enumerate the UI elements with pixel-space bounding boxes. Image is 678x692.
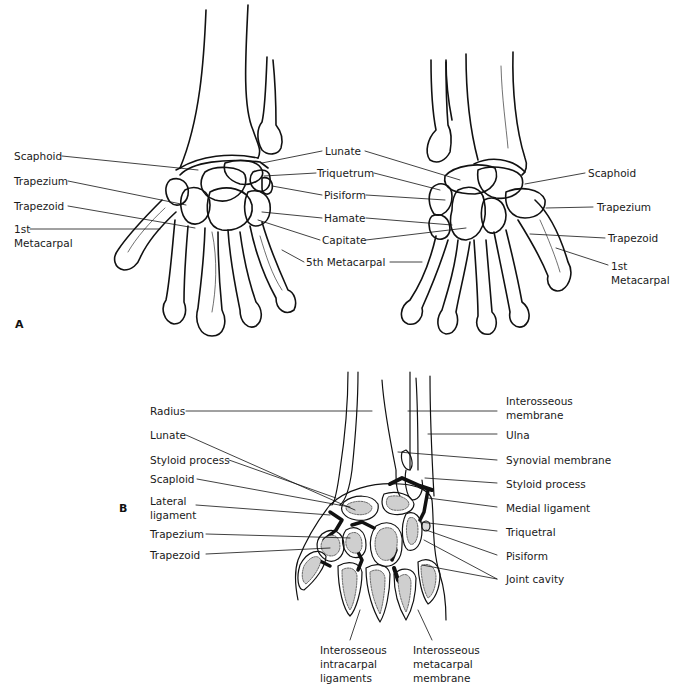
wrist-anatomy-illustration — [0, 0, 678, 692]
label-b-lateral-ligament: Lateral ligament — [150, 494, 196, 522]
label-b-trapezoid: Trapezoid — [150, 548, 200, 562]
label-b-radius: Radius — [150, 404, 185, 418]
label-b-scaploid: Scaploid — [150, 472, 194, 486]
label-b-medial-ligament: Medial ligament — [506, 501, 590, 515]
label-a-pisiform: Pisiform — [324, 188, 366, 202]
panel-label-b: B — [119, 502, 127, 515]
label-b-interosseous-membrane: Interosseous membrane — [506, 394, 573, 422]
label-a-right-trapezoid: Trapezoid — [608, 231, 658, 245]
label-a-right-trapezium: Trapezium — [597, 200, 651, 214]
label-a-lunate: Lunate — [325, 144, 361, 158]
label-b-trapezium: Trapezium — [150, 527, 204, 541]
label-a-left-first-metacarpal: 1st Metacarpal — [14, 222, 73, 250]
label-b-synovial-membrane: Synovial membrane — [506, 453, 611, 467]
label-a-left-scaphoid: Scaphoid — [14, 149, 62, 163]
right-hand-skeleton — [401, 52, 570, 334]
label-b-styloid-process-right: Styloid process — [506, 477, 586, 491]
metacarpal-bases-cross-section — [338, 560, 440, 622]
label-b-interosseous-intracarpal-ligaments: Interosseous intracarpal ligaments — [320, 643, 387, 685]
label-a-hamate: Hamate — [324, 211, 366, 225]
label-b-styloid-process-left: Styloid process — [150, 453, 230, 467]
wrist-cross-section — [296, 372, 446, 622]
label-a-right-first-metacarpal: 1st Metacarpal — [611, 259, 670, 287]
carpal-bones-cross-section — [298, 492, 430, 590]
label-a-capitate: Capitate — [322, 233, 366, 247]
label-b-pisiform: Pisiform — [506, 549, 548, 563]
label-a-right-scaphoid: Scaphoid — [588, 166, 636, 180]
label-a-triquetrum: Triquetrum — [317, 166, 374, 180]
label-a-left-trapezium: Trapezium — [14, 174, 68, 188]
label-b-triquetral: Triquetral — [506, 525, 556, 539]
panel-label-a: A — [15, 318, 24, 331]
label-a-fifth-metacarpal: 5th Metacarpal — [306, 255, 385, 269]
label-b-joint-cavity: Joint cavity — [506, 572, 564, 586]
label-b-ulna: Ulna — [506, 428, 530, 442]
label-b-lunate: Lunate — [150, 428, 186, 442]
label-a-left-trapezoid: Trapezoid — [14, 199, 64, 213]
left-hand-skeleton — [115, 5, 296, 336]
label-b-interosseous-metacarpal-membrane: Interosseous metacarpal membrane — [413, 643, 480, 685]
